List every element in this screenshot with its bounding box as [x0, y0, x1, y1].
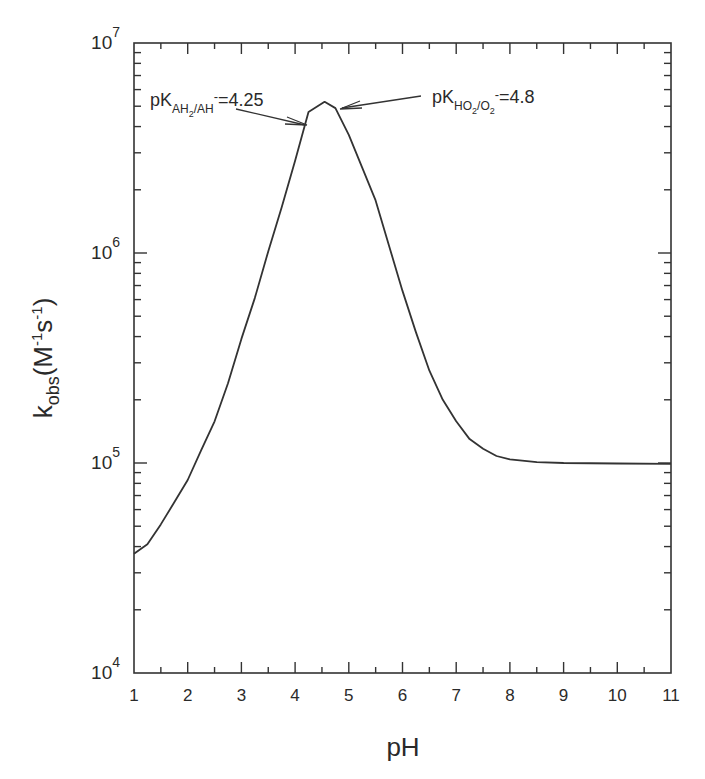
- axis-ticks: [134, 43, 671, 673]
- x-tick-label: 8: [505, 686, 514, 705]
- y-tick-label: 106: [91, 234, 120, 263]
- svg-text:kobs(M-1s-1): kobs(M-1s-1): [28, 298, 63, 419]
- x-tick-label: 2: [183, 686, 192, 705]
- y-tick-label: 107: [91, 24, 120, 53]
- x-axis-title: pH: [386, 732, 419, 762]
- x-tick-label: 10: [608, 686, 627, 705]
- tick-labels: 1234567891011104105106107: [91, 24, 680, 705]
- y-tick-label: 105: [91, 444, 120, 473]
- arrow-line: [342, 96, 421, 108]
- plot-frame: [134, 43, 671, 673]
- x-tick-label: 5: [344, 686, 353, 705]
- svg-text:pKHO2/O2-=4.8: pKHO2/O2-=4.8: [432, 87, 535, 116]
- annotation-pka-ah2: pKAH2/AH-=4.25: [150, 89, 307, 125]
- x-tick-label: 6: [398, 686, 407, 705]
- svg-text:pKAH2/AH-=4.25: pKAH2/AH-=4.25: [150, 89, 264, 119]
- x-tick-label: 11: [662, 686, 680, 705]
- y-tick-label: 104: [91, 654, 120, 683]
- x-tick-label: 9: [559, 686, 568, 705]
- arrow-line: [236, 109, 305, 125]
- kobs-curve: [134, 102, 671, 554]
- y-axis-title: kobs(M-1s-1): [28, 298, 63, 419]
- annotation-pka-ho2: pKHO2/O2-=4.8: [340, 87, 535, 116]
- x-tick-label: 3: [237, 686, 246, 705]
- chart-canvas: 1234567891011104105106107 pKAH2/AH-=4.25…: [0, 0, 705, 779]
- x-tick-label: 1: [129, 686, 138, 705]
- x-tick-label: 7: [451, 686, 460, 705]
- x-tick-label: 4: [290, 686, 299, 705]
